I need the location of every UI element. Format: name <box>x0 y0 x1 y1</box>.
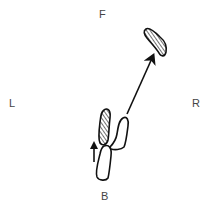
small-up-arrow-icon <box>90 141 98 162</box>
right-foot-start-icon <box>110 117 128 149</box>
right-foot-target-icon <box>144 29 166 56</box>
movement-arrow-icon <box>127 56 153 114</box>
left-foot-weighted-icon <box>99 109 110 145</box>
left-foot-outline-icon <box>96 145 111 180</box>
footwork-diagram <box>0 0 213 205</box>
